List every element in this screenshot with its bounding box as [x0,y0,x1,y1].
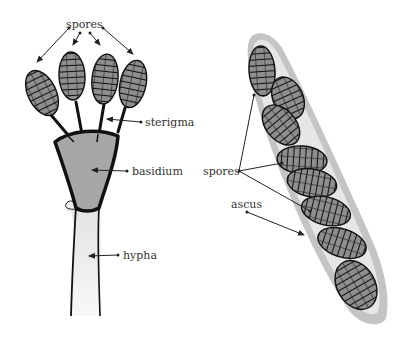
fungal-spore-diagram: spores sterigma basidium hypha [0,0,410,339]
spore [89,53,120,105]
svg-text:hypha: hypha [123,249,157,262]
spore [115,58,150,110]
ascus-diagram: spores ascus [203,33,387,324]
ascospores [247,45,385,317]
label-ascus: ascus [231,198,304,235]
svg-text:basidium: basidium [132,165,183,178]
svg-text:sterigma: sterigma [145,116,195,129]
hypha-shape [65,201,101,316]
svg-text:spores: spores [203,165,240,178]
basidiospores [19,51,151,120]
spore [19,65,65,120]
spore [58,51,86,100]
basidium-shape [55,131,118,211]
svg-text:spores: spores [66,18,103,31]
svg-text:ascus: ascus [231,198,262,211]
label-spores-left: spores [37,18,133,62]
basidium-diagram: spores sterigma basidium hypha [19,18,195,316]
